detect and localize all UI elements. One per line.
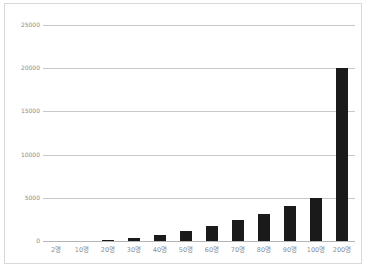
x-axis-tick-label: 80명 — [251, 245, 277, 255]
bar — [128, 238, 140, 241]
bar-slot — [95, 25, 121, 241]
y-axis-tick-label: 15000 — [21, 108, 40, 114]
bar — [206, 226, 218, 241]
x-axis-tick-label: 70명 — [225, 245, 251, 255]
bar — [284, 206, 296, 241]
x-axis-tick-label: 40명 — [147, 245, 173, 255]
x-axis-tick-label: 100명 — [303, 245, 329, 255]
bar-slot — [329, 25, 355, 241]
x-axis-tick-label: 30명 — [121, 245, 147, 255]
bar-slot — [173, 25, 199, 241]
bar-slot — [43, 25, 69, 241]
x-axis-tick-label: 90명 — [277, 245, 303, 255]
gridline — [43, 241, 355, 242]
x-axis-tick-label: 60명 — [199, 245, 225, 255]
y-axis-tick-label: 20000 — [21, 65, 40, 71]
bar-slot — [251, 25, 277, 241]
y-axis-tick-label: 5000 — [25, 195, 40, 201]
x-axis-tick-label: 20명 — [95, 245, 121, 255]
bar — [102, 240, 114, 241]
y-axis-tick-label: 25000 — [21, 22, 40, 28]
chart-frame: 0500010000150002000025000 2명10명20명30명40명… — [4, 3, 362, 264]
bar — [258, 214, 270, 241]
y-axis: 0500010000150002000025000 — [9, 25, 40, 241]
bar — [310, 198, 322, 241]
bar — [336, 68, 348, 241]
bar-slot — [303, 25, 329, 241]
x-axis-tick-label: 200명 — [329, 245, 355, 255]
bar-slot — [199, 25, 225, 241]
bar — [154, 235, 166, 241]
x-axis: 2명10명20명30명40명50명60명70명80명90명100명200명 — [43, 245, 355, 259]
bar-series — [43, 25, 355, 241]
bar-slot — [225, 25, 251, 241]
x-axis-tick-label: 10명 — [69, 245, 95, 255]
plot-area — [43, 25, 355, 241]
x-axis-tick-label: 50명 — [173, 245, 199, 255]
y-axis-tick-label: 10000 — [21, 152, 40, 158]
bar-slot — [121, 25, 147, 241]
y-axis-tick-label: 0 — [36, 238, 40, 244]
bar-slot — [277, 25, 303, 241]
bar-slot — [69, 25, 95, 241]
x-axis-tick-label: 2명 — [43, 245, 69, 255]
bar — [180, 231, 192, 241]
bar-slot — [147, 25, 173, 241]
bar — [232, 220, 244, 241]
